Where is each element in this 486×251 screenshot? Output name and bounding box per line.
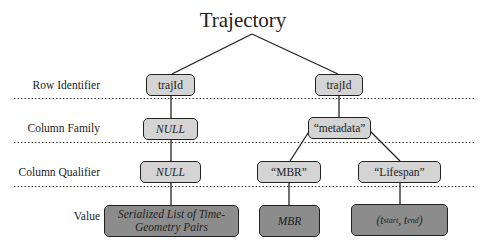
mbr-value-node: MBR xyxy=(259,205,320,237)
value-line-2: Geometry Pairs xyxy=(135,221,208,234)
lifespan-value-node: (tstart, tend) xyxy=(351,204,448,236)
left-column-qualifier-node: NULL xyxy=(140,161,201,183)
left-row-id-node: trajId xyxy=(146,74,195,96)
sub-end: end xyxy=(407,214,419,227)
sub-start: start xyxy=(384,214,399,227)
diagram-title: Trajectory xyxy=(0,8,486,33)
paren-close: ) xyxy=(419,214,423,227)
label-column-qualifier: Column Qualifier xyxy=(0,166,100,178)
left-value-node: Serialized List of Time- Geometry Pairs xyxy=(104,205,239,237)
lifespan-qualifier-node: “Lifespan” xyxy=(358,161,441,183)
label-value: Value xyxy=(0,210,100,222)
label-row-identifier: Row Identifier xyxy=(0,79,100,91)
label-column-family: Column Family xyxy=(0,122,100,134)
value-line-1: Serialized List of Time- xyxy=(118,208,225,221)
right-column-family-node: “metadata” xyxy=(308,117,371,139)
mbr-qualifier-node: “MBR” xyxy=(257,161,321,183)
right-row-id-node: trajId xyxy=(315,74,363,96)
left-column-family-node: NULL xyxy=(143,118,198,140)
